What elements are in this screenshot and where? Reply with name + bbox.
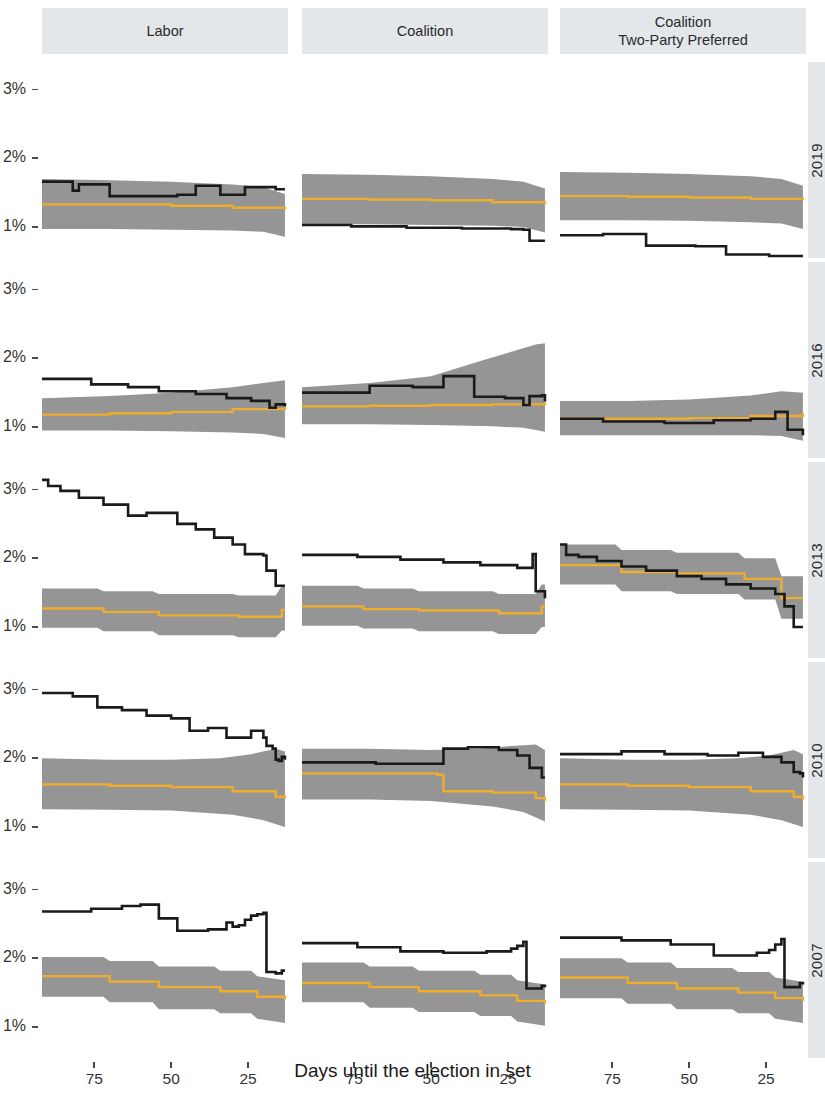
y-axis-tick: [32, 757, 38, 759]
observed-line: [302, 225, 545, 241]
y-axis-label: 1%: [0, 617, 26, 635]
panel-2019-coalition-two-party-preferred: [560, 62, 806, 258]
y-axis-label: 3%: [0, 280, 26, 298]
uncertainty-band: [302, 745, 545, 822]
y-axis-tick: [32, 489, 38, 491]
y-axis-tick: [32, 226, 38, 228]
panel-2013-coalition: [302, 462, 548, 658]
facet-row-text: 2019: [808, 143, 825, 178]
panel-2007-coalition: [302, 862, 548, 1058]
faceted-line-chart: Labor Coalition Coalition Two-Party Pref…: [0, 0, 825, 1101]
y-axis-label: 3%: [0, 80, 26, 98]
y-axis-tick: [32, 689, 38, 691]
panel-2013-coalition-two-party-preferred: [560, 462, 806, 658]
observed-line: [560, 234, 803, 256]
uncertainty-band: [302, 962, 545, 1025]
facet-column-header-coalition: Coalition: [302, 8, 548, 54]
y-axis-label: 2%: [0, 748, 26, 766]
y-axis-label: 3%: [0, 480, 26, 498]
panel-2016-labor: [42, 262, 288, 458]
uncertainty-band: [42, 957, 285, 1023]
facet-row-label-2007: 2007: [808, 862, 825, 1058]
y-axis-label: 3%: [0, 880, 26, 898]
y-axis-label: 3%: [0, 680, 26, 698]
observed-line: [42, 693, 285, 761]
facet-row-label-2019: 2019: [808, 62, 825, 258]
uncertainty-band: [560, 958, 803, 1023]
panel-2007-labor: [42, 862, 288, 1058]
uncertainty-band: [560, 750, 803, 827]
y-axis-tick: [32, 826, 38, 828]
y-axis-label: 1%: [0, 1017, 26, 1035]
panel-2016-coalition-two-party-preferred: [560, 262, 806, 458]
y-axis-label: 2%: [0, 948, 26, 966]
y-axis-tick: [32, 289, 38, 291]
y-axis-tick: [32, 426, 38, 428]
panel-2019-coalition: [302, 62, 548, 258]
y-axis-label: 1%: [0, 417, 26, 435]
y-axis-label: 2%: [0, 348, 26, 366]
y-axis-tick: [32, 889, 38, 891]
x-axis-title: Days until the election in set: [0, 1060, 825, 1082]
facet-row-label-2013: 2013: [808, 462, 825, 658]
y-axis-tick: [32, 1026, 38, 1028]
facet-row-text: 2016: [808, 343, 825, 378]
facet-row-label-2010: 2010: [808, 662, 825, 858]
facet-row-text: 2007: [808, 943, 825, 978]
y-axis-tick: [32, 157, 38, 159]
observed-line: [42, 480, 285, 586]
panel-2013-labor: [42, 462, 288, 658]
y-axis-tick: [32, 626, 38, 628]
uncertainty-band: [42, 749, 285, 827]
uncertainty-band: [560, 172, 803, 229]
panel-2016-coalition: [302, 262, 548, 458]
y-axis-tick: [32, 89, 38, 91]
y-axis-tick: [32, 557, 38, 559]
facet-column-header-labor: Labor: [42, 8, 288, 54]
facet-column-header-coalition-two-party-preferred: Coalition Two-Party Preferred: [560, 8, 806, 54]
facet-row-text: 2013: [808, 543, 825, 578]
uncertainty-band: [42, 586, 285, 638]
y-axis-tick: [32, 957, 38, 959]
y-axis-label: 2%: [0, 548, 26, 566]
y-axis-label: 1%: [0, 217, 26, 235]
y-axis-tick: [32, 357, 38, 359]
y-axis-label: 2%: [0, 148, 26, 166]
uncertainty-band: [302, 584, 545, 634]
facet-row-text: 2010: [808, 743, 825, 778]
y-axis-label: 1%: [0, 817, 26, 835]
panel-2007-coalition-two-party-preferred: [560, 862, 806, 1058]
facet-row-label-2016: 2016: [808, 262, 825, 458]
panel-2010-coalition-two-party-preferred: [560, 662, 806, 858]
panel-2019-labor: [42, 62, 288, 258]
panel-2010-coalition: [302, 662, 548, 858]
panel-2010-labor: [42, 662, 288, 858]
